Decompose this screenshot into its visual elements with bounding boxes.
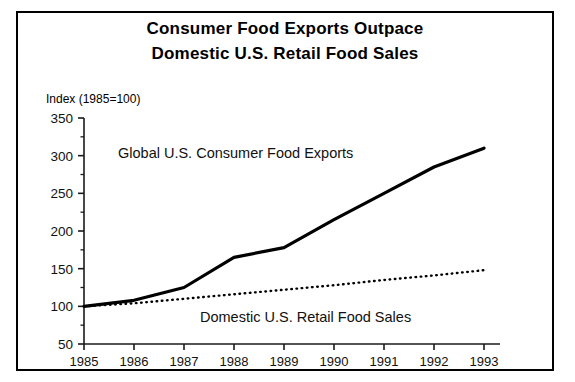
- x-tick-label: 1985: [70, 354, 99, 369]
- data-series: [84, 148, 484, 306]
- x-tick-label: 1993: [470, 354, 499, 369]
- series-line-solid: [84, 148, 484, 306]
- y-axis-ticks: 50100150200250300350: [50, 111, 84, 352]
- x-tick-label: 1987: [170, 354, 199, 369]
- x-axis-ticks: 198519861987198819891990199119921993: [70, 344, 499, 369]
- x-tick-label: 1991: [370, 354, 399, 369]
- series-line-dotted: [84, 270, 484, 306]
- y-tick-label: 250: [50, 186, 73, 201]
- y-tick-label: 50: [58, 337, 73, 352]
- plot-area: 50100150200250300350 1985198619871988198…: [0, 0, 575, 382]
- y-tick-label: 350: [50, 111, 73, 126]
- x-tick-label: 1990: [320, 354, 349, 369]
- y-tick-label: 150: [50, 262, 73, 277]
- y-tick-label: 200: [50, 224, 73, 239]
- series-annotations: Global U.S. Consumer Food ExportsDomesti…: [118, 145, 411, 325]
- y-tick-label: 100: [50, 299, 73, 314]
- x-tick-label: 1986: [120, 354, 149, 369]
- x-tick-label: 1989: [270, 354, 299, 369]
- series-annotation-domestic: Domestic U.S. Retail Food Sales: [200, 309, 411, 325]
- chart-figure: Consumer Food Exports Outpace Domestic U…: [0, 0, 575, 382]
- y-tick-label: 300: [50, 149, 73, 164]
- x-tick-label: 1992: [420, 354, 449, 369]
- x-tick-label: 1988: [220, 354, 249, 369]
- series-annotation-exports: Global U.S. Consumer Food Exports: [118, 145, 353, 161]
